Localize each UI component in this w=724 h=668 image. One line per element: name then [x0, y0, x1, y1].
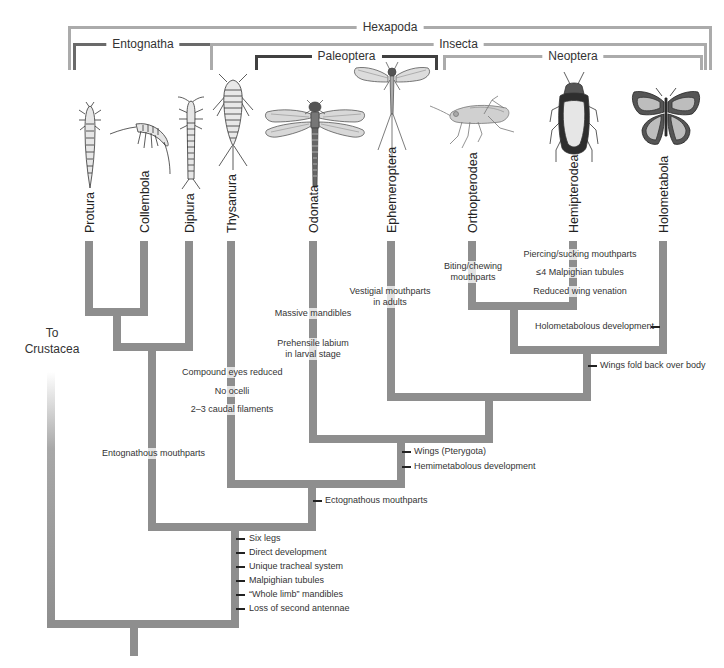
trait-neoptera: Wings fold back over body — [600, 360, 706, 371]
tick-hexapoda-6 — [236, 608, 245, 610]
trait-hexapoda-1: Six legs — [249, 533, 281, 544]
springtail-icon — [108, 118, 174, 176]
taxon-label-odonata: Odonata — [307, 185, 321, 233]
clade-label-neoptera: Neoptera — [542, 49, 603, 63]
node-paraneoptera — [468, 302, 577, 310]
branch-diplura — [185, 241, 193, 351]
trait-ephemeroptera-1: Vestigial mouthparts — [340, 286, 440, 297]
taxon-label-collembola: Collembola — [138, 170, 152, 233]
grasshopper-icon — [426, 92, 520, 152]
trait-hexapoda-6: Loss of second antennae — [249, 603, 350, 614]
branch-crustacea — [47, 372, 55, 628]
tick-hexapoda-4 — [236, 580, 245, 582]
taxon-label-diplura: Diplura — [183, 193, 197, 233]
trait-odonata-1: Massive mandibles — [268, 308, 358, 319]
trait-hexapoda-2: Direct development — [249, 547, 327, 558]
tick-pterygota-2 — [402, 466, 411, 468]
tick-holometabola — [651, 326, 660, 328]
trait-orthopterodea-2: mouthparts — [440, 272, 506, 283]
clade-label-paleoptera: Paleoptera — [311, 49, 381, 63]
tick-hexapoda-3 — [236, 566, 245, 568]
taxon-label-holometabola: Holometabola — [657, 156, 671, 233]
taxon-label-orthopterodea: Orthopterodea — [466, 152, 480, 233]
clade-label-hexapoda: Hexapoda — [357, 20, 424, 34]
taxon-label-thysanura: Thysanura — [225, 174, 239, 233]
outgroup-label: To Crustacea — [16, 325, 88, 357]
branch-protura — [85, 241, 93, 316]
silverfish-icon — [211, 72, 255, 172]
trait-pterygota-2: Hemimetabolous development — [414, 461, 536, 472]
branch-ephemeroptera — [387, 241, 395, 401]
trait-odonata-2: Prehensile labium — [268, 338, 358, 349]
tick-hexapoda-5 — [236, 594, 245, 596]
trait-holometabola: Holometabolous development — [535, 321, 654, 332]
branch-collembola — [140, 241, 148, 316]
true-bug-icon — [550, 72, 598, 164]
butterfly-icon — [630, 88, 702, 150]
taxon-label-hemipterodea: Hemipterodea — [567, 154, 581, 233]
tick-hexapoda-2 — [236, 552, 245, 554]
stem-entognatha — [148, 343, 156, 531]
trait-orthopterodea-1: Biting/chewing — [440, 261, 506, 272]
trait-odonata-3: in larval stage — [268, 349, 358, 360]
trait-pterygota-1: Wings (Pterygota) — [414, 446, 486, 457]
trait-thysanura-1: Compound eyes reduced — [182, 367, 282, 378]
trait-entognatha: Entognathous mouthparts — [102, 448, 205, 459]
trait-hemipterodea-2: ≤4 Malpighian tubules — [520, 267, 640, 278]
trait-hemipterodea-1: Piercing/sucking mouthparts — [520, 249, 640, 260]
trait-hexapoda-5: “Whole limb” mandibles — [249, 589, 343, 600]
tick-pterygota-1 — [402, 451, 411, 453]
trait-insecta: Ectognathous mouthparts — [325, 495, 428, 506]
bracket-neoptera: Neoptera — [443, 55, 703, 70]
tick-hexapoda-1 — [236, 538, 245, 540]
node-insecta — [227, 480, 405, 488]
tick-neoptera — [588, 365, 597, 367]
trait-thysanura-2: No ocelli — [182, 386, 282, 397]
tick-insecta — [313, 500, 322, 502]
trait-hexapoda-3: Unique tracheal system — [249, 561, 343, 572]
trait-hemipterodea-3: Reduced wing venation — [520, 286, 640, 297]
proturan-icon — [78, 100, 102, 192]
clade-label-entognatha: Entognatha — [106, 37, 179, 51]
node-root — [47, 620, 239, 628]
root-stem — [130, 620, 138, 656]
taxon-label-ephemeroptera: Ephemeroptera — [385, 147, 399, 233]
branch-thysanura — [227, 241, 235, 488]
branch-holometabola — [659, 241, 667, 354]
trait-hexapoda-4: Malpighian tubules — [249, 575, 324, 586]
trait-thysanura-3: 2–3 caudal filaments — [182, 404, 282, 415]
clade-label-insecta: Insecta — [433, 37, 484, 51]
bracket-entognatha: Entognatha — [73, 43, 213, 70]
dipluran-icon — [176, 93, 206, 193]
trait-ephemeroptera-2: in adults — [340, 297, 440, 308]
taxon-label-protura: Protura — [83, 192, 97, 233]
